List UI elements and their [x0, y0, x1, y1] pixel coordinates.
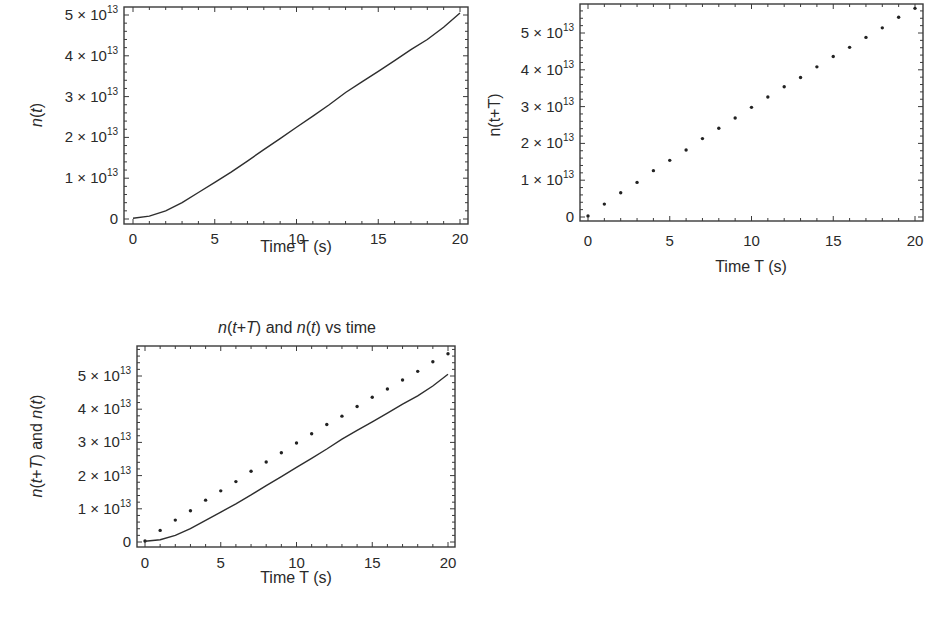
y-tick-label: 1 × 1013	[78, 498, 132, 517]
y-tick-label: 5 × 1013	[65, 4, 119, 23]
x-tick-label: 0	[141, 554, 149, 571]
plot-n-t: 0510152001 × 10132 × 10133 × 10134 × 101…	[28, 4, 468, 255]
x-tick-label: 5	[217, 554, 225, 571]
series-point-n-t-plus-T	[832, 55, 835, 58]
series-line-n-t	[145, 374, 448, 541]
y-tick-label: 1 × 1013	[65, 167, 119, 186]
x-axis-title: Time T (s)	[715, 258, 787, 275]
series-point-n-t-plus-T	[446, 352, 449, 355]
chart-title: n(t+T) and n(t) vs time	[218, 319, 376, 336]
series-point-n-t-plus-T	[897, 15, 900, 18]
series-point-n-t-plus-T	[913, 7, 916, 10]
y-tick-label: 0	[566, 208, 574, 225]
y-tick-label: 2 × 1013	[521, 132, 575, 151]
x-tick-label: 5	[211, 230, 219, 247]
series-point-n-t-plus-T	[864, 36, 867, 39]
y-axis-title: n(t+T)	[486, 93, 503, 136]
series-point-n-t-plus-T	[325, 423, 328, 426]
x-tick-label: 15	[825, 232, 842, 249]
series-point-n-t-plus-T	[310, 432, 313, 435]
series-point-n-t-plus-T	[881, 26, 884, 29]
series-point-n-t-plus-T	[295, 441, 298, 444]
y-tick-label: 5 × 1013	[521, 22, 575, 41]
y-tick-label: 3 × 1013	[65, 86, 119, 105]
series-point-n-t-plus-T	[174, 518, 177, 521]
x-axis-title: Time T (s)	[260, 238, 332, 255]
series-point-n-t-plus-T	[701, 137, 704, 140]
series-point-n-t-plus-T	[766, 95, 769, 98]
plot-frame	[580, 4, 923, 221]
series-point-n-t-plus-T	[652, 169, 655, 172]
x-tick-label: 15	[364, 554, 381, 571]
figure-canvas: 0510152001 × 10132 × 10133 × 10134 × 101…	[0, 0, 935, 626]
series-point-n-t-plus-T	[586, 214, 589, 217]
y-tick-label: 2 × 1013	[78, 465, 132, 484]
series-point-n-t-plus-T	[799, 76, 802, 79]
y-axis-title: n(t+T) and n(t)	[28, 395, 45, 498]
x-tick-label: 20	[440, 554, 457, 571]
series-point-n-t-plus-T	[668, 159, 671, 162]
x-tick-label: 0	[584, 232, 592, 249]
x-tick-label: 5	[666, 232, 674, 249]
series-point-n-t-plus-T	[603, 202, 606, 205]
y-tick-label: 2 × 1013	[65, 126, 119, 145]
series-point-n-t-plus-T	[431, 360, 434, 363]
series-point-n-t-plus-T	[189, 509, 192, 512]
y-tick-label: 0	[123, 533, 131, 550]
y-tick-label: 5 × 1013	[78, 365, 132, 384]
series-point-n-t-plus-T	[386, 387, 389, 390]
y-tick-label: 1 × 1013	[521, 169, 575, 188]
series-point-n-t-plus-T	[619, 191, 622, 194]
series-point-n-t-plus-T	[280, 451, 283, 454]
plot-n-t-plus-T: 0510152001 × 10132 × 10133 × 10134 × 101…	[486, 4, 923, 275]
series-point-n-t-plus-T	[158, 529, 161, 532]
series-point-n-t-plus-T	[371, 396, 374, 399]
series-point-n-t-plus-T	[848, 46, 851, 49]
y-tick-label: 3 × 1013	[78, 431, 132, 450]
series-point-n-t-plus-T	[265, 460, 268, 463]
series-point-n-t-plus-T	[635, 181, 638, 184]
series-point-n-t-plus-T	[401, 378, 404, 381]
y-tick-label: 4 × 1013	[78, 398, 132, 417]
x-axis-title: Time T (s)	[260, 569, 332, 586]
series-point-n-t-plus-T	[234, 480, 237, 483]
series-point-n-t-plus-T	[219, 489, 222, 492]
x-tick-label: 20	[452, 230, 469, 247]
series-point-n-t-plus-T	[815, 65, 818, 68]
series-point-n-t-plus-T	[340, 414, 343, 417]
y-axis-title: n(t)	[28, 103, 45, 127]
series-line-n-t	[133, 13, 460, 218]
series-point-n-t-plus-T	[355, 405, 358, 408]
series-point-n-t-plus-T	[684, 148, 687, 151]
series-point-n-t-plus-T	[750, 106, 753, 109]
x-tick-label: 20	[907, 232, 924, 249]
plot-frame	[137, 346, 455, 547]
x-tick-label: 0	[129, 230, 137, 247]
y-tick-label: 3 × 1013	[521, 96, 575, 115]
series-point-n-t-plus-T	[733, 116, 736, 119]
y-tick-label: 4 × 1013	[521, 59, 575, 78]
plot-combined: 0510152001 × 10132 × 10133 × 10134 × 101…	[28, 319, 456, 586]
x-tick-label: 15	[370, 230, 387, 247]
y-tick-label: 0	[110, 210, 118, 227]
x-tick-label: 10	[743, 232, 760, 249]
y-tick-label: 4 × 1013	[65, 45, 119, 64]
series-point-n-t-plus-T	[204, 498, 207, 501]
series-point-n-t-plus-T	[249, 470, 252, 473]
series-point-n-t-plus-T	[717, 127, 720, 130]
series-point-n-t-plus-T	[416, 370, 419, 373]
series-point-n-t-plus-T	[783, 85, 786, 88]
plot-frame	[124, 7, 468, 224]
